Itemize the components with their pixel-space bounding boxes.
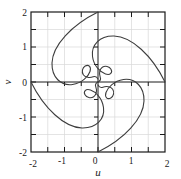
x-tick-label-neg1: -1 [58, 156, 66, 166]
x-axis-label: u [95, 166, 101, 178]
y-tick-label-0: 0 [22, 78, 27, 88]
x-tick-label-2: 2 [165, 159, 170, 169]
y-tick-label-neg1: -1 [19, 113, 27, 123]
y-axis-label: v [1, 79, 13, 84]
x-tick-label-1: 1 [129, 156, 134, 166]
phase-portrait-figure: 0 -1 1 -2 2 2 1 0 -1 -2 u v [0, 0, 181, 179]
x-tick-label-0: 0 [93, 156, 98, 166]
y-tick-label-1: 1 [22, 42, 27, 52]
x-tick-label-neg2: -2 [29, 159, 37, 169]
y-tick-label-2: 2 [22, 8, 27, 18]
plot-svg: 0 -1 1 -2 2 2 1 0 -1 -2 u v [0, 0, 181, 179]
y-tick-label-neg2: -2 [19, 148, 27, 158]
